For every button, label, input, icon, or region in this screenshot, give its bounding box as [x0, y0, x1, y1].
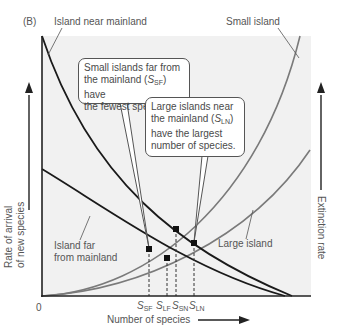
label-island-near-mainland: Island near mainland — [54, 16, 147, 27]
panel-label: (B) — [23, 16, 36, 27]
tick-s-ln: SLN — [189, 300, 205, 314]
point-s-lf — [164, 255, 170, 261]
callout-large-near: Large islands near the mainland (SLN) ha… — [145, 97, 245, 157]
label-small-island: Small island — [226, 16, 280, 27]
callout-large-near-line3: have the largest — [151, 128, 239, 140]
point-s-ln — [191, 240, 197, 246]
callout-large-near-line1: Large islands near — [151, 101, 239, 113]
tick-s-sn: SSN — [172, 300, 188, 314]
callout-large-near-line4: number of species. — [151, 140, 239, 152]
label-island-far-line1: Island far — [54, 240, 95, 251]
y-axis-label-left-line2: of new species — [15, 202, 26, 268]
tick-s-lf: SLF — [156, 300, 171, 314]
point-s-sn — [173, 226, 179, 232]
y-axis-label-right: Extinction rate — [316, 196, 327, 259]
callout-large-near-line2: the mainland (SLN) — [151, 113, 239, 128]
callout-small-far-line1: Small islands far from — [84, 62, 184, 74]
tick-s-sf: SSF — [137, 300, 153, 314]
label-large-island: Large island — [218, 238, 272, 249]
label-island-far-line2: from mainland — [54, 252, 117, 263]
x-axis-label: Number of species — [107, 314, 190, 325]
right-axis-arrowhead-icon — [317, 82, 325, 93]
x-axis-arrowhead-icon — [239, 316, 250, 324]
point-s-sf — [146, 246, 152, 252]
left-axis-arrowhead-icon — [25, 82, 33, 93]
origin-label: 0 — [36, 302, 42, 313]
island-biogeography-plot — [0, 0, 338, 336]
y-axis-label-left-line1: Rate of arrival — [3, 206, 14, 268]
